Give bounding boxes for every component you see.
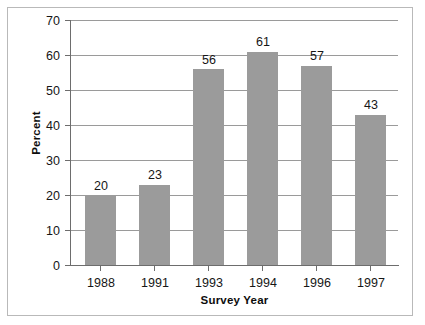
x-tick-mark-1993 (208, 266, 209, 271)
bar-value-label-1996: 57 (287, 49, 347, 63)
x-tick-mark-1996 (316, 266, 317, 271)
y-axis-title: Percent (30, 93, 42, 173)
y-tick-mark-60 (65, 55, 70, 56)
bar-1991 (139, 185, 170, 266)
y-axis-line (70, 20, 71, 266)
y-tick-mark-10 (65, 230, 70, 231)
y-tick-label-0: 0 (20, 259, 60, 273)
gridline-40 (70, 125, 398, 126)
gridline-70 (70, 20, 398, 21)
bar-value-label-1993: 56 (179, 53, 239, 67)
x-tick-mark-1997 (370, 266, 371, 271)
y-tick-mark-0 (65, 265, 70, 266)
y-tick-label-10: 10 (20, 224, 60, 238)
x-tick-label-1994: 1994 (233, 276, 293, 290)
gridline-10 (70, 230, 398, 231)
y-tick-mark-70 (65, 20, 70, 21)
bar-value-label-1991: 23 (125, 168, 185, 182)
x-tick-label-1988: 1988 (71, 276, 131, 290)
bar-1988 (85, 195, 116, 265)
x-tick-mark-1988 (100, 266, 101, 271)
bar-value-label-1997: 43 (341, 98, 401, 112)
bar-1997 (355, 115, 386, 266)
bar-1993 (193, 69, 224, 265)
y-tick-label-20: 20 (20, 189, 60, 203)
y-tick-label-60: 60 (20, 49, 60, 63)
bar-1994 (247, 52, 278, 266)
y-tick-mark-20 (65, 195, 70, 196)
x-tick-label-1996: 1996 (287, 276, 347, 290)
y-tick-mark-50 (65, 90, 70, 91)
bar-value-label-1988: 20 (71, 179, 131, 193)
gridline-50 (70, 90, 398, 91)
x-tick-mark-1994 (262, 266, 263, 271)
x-axis-line (70, 265, 399, 266)
y-tick-label-70: 70 (20, 14, 60, 28)
bar-value-label-1994: 61 (233, 35, 293, 49)
x-tick-mark-1991 (154, 266, 155, 271)
y-tick-mark-40 (65, 125, 70, 126)
bar-1996 (301, 66, 332, 266)
chart-figure: 70 60 50 40 30 20 10 0 1988 1991 1993 19… (0, 0, 425, 325)
gridline-20 (70, 195, 398, 196)
x-axis-title: Survey Year (70, 294, 399, 306)
gridline-30 (70, 160, 398, 161)
x-tick-label-1991: 1991 (125, 276, 185, 290)
x-tick-label-1993: 1993 (179, 276, 239, 290)
y-tick-mark-30 (65, 160, 70, 161)
x-tick-label-1997: 1997 (341, 276, 401, 290)
